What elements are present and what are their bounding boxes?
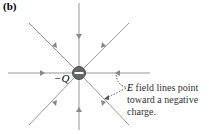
annotation-text: E field lines point toward a negative ch… [127,82,209,118]
field-line [84,23,129,68]
field-arrow-icon [76,34,82,39]
charge-label: −Q [54,72,69,84]
field-line [29,23,74,68]
field-line [29,78,74,125]
field-arrow-icon [40,70,45,76]
annotation-arrow [116,75,126,87]
field-line [84,78,129,125]
minus-sign-icon [75,72,84,74]
field-arrow-icon [76,107,82,112]
